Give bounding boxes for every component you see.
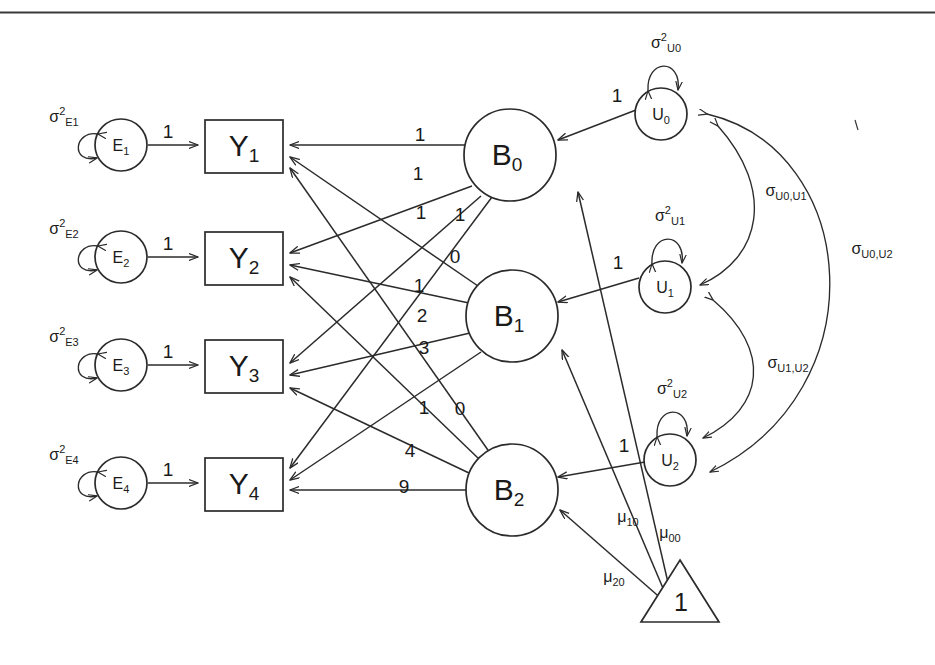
edge-u0-to-b0 xyxy=(558,110,636,140)
stray-pen-mark xyxy=(855,120,858,130)
latent-node-b0: B0 xyxy=(464,109,556,201)
observed-node-y3: Y3 xyxy=(205,340,283,393)
sem-path-diagram: E1 σ2E1 1 E2 σ2E2 1 E3 σ2E3 1 E4 σ2E4 1 … xyxy=(0,0,935,665)
loading-label-e1-y1: 1 xyxy=(163,121,174,142)
e2-variance-label: σ2E2 xyxy=(49,217,78,240)
loading-label-e4-y4: 1 xyxy=(163,459,174,480)
covariance-label-u0-u2: σU0,U2 xyxy=(851,240,892,260)
diagram-canvas: E1 σ2E1 1 E2 σ2E2 1 E3 σ2E3 1 E4 σ2E4 1 … xyxy=(0,0,935,665)
covariance-arc-u1-u2 xyxy=(703,300,754,438)
edge-b2-to-y3 xyxy=(290,388,469,473)
path-label-b0-y2: 1 xyxy=(413,163,424,184)
mean-label-mu10: μ10 xyxy=(617,508,638,528)
residual-node-e1: E1 xyxy=(95,119,147,171)
disturbance-node-u0: U0 xyxy=(635,88,687,140)
path-label-b2-y2: 1 xyxy=(419,397,430,418)
path-label-b0-y1: 1 xyxy=(415,124,426,145)
latent-node-b2: B2 xyxy=(466,444,558,536)
e4-variance-label: σ2E4 xyxy=(49,443,78,466)
disturbance-node-u1: U1 xyxy=(639,261,691,313)
constant-label: 1 xyxy=(674,588,688,616)
path-label-b1-y3: 2 xyxy=(417,305,428,326)
path-label-b2-y1: 0 xyxy=(455,398,466,419)
covariance-arc-u0-u2 xyxy=(707,114,830,472)
loading-label-u0-b0: 1 xyxy=(612,85,623,106)
path-label-b1-y1: 0 xyxy=(450,246,461,267)
observed-node-y1: Y1 xyxy=(205,120,283,173)
latent-node-b1: B1 xyxy=(466,270,558,362)
loading-label-e3-y3: 1 xyxy=(163,341,174,362)
residual-node-e2: E2 xyxy=(95,231,147,283)
path-label-b0-y4: 1 xyxy=(455,204,466,225)
residual-node-e4: E4 xyxy=(95,457,147,509)
path-label-b0-y3: 1 xyxy=(416,202,427,223)
edge-b0-to-y4 xyxy=(290,197,492,468)
mean-label-mu20: μ20 xyxy=(603,568,624,588)
u1-variance-label: σ2U1 xyxy=(655,204,685,227)
mean-label-mu00: μ00 xyxy=(659,524,680,544)
residual-node-e3: E3 xyxy=(95,339,147,391)
covariance-arc-u0-u1 xyxy=(700,126,754,285)
u0-variance-label: σ2U0 xyxy=(651,31,681,54)
path-label-b1-y4: 3 xyxy=(419,337,430,358)
e1-variance-label: σ2E1 xyxy=(49,105,78,128)
observed-node-y2: Y2 xyxy=(205,232,283,285)
path-label-b1-y2: 1 xyxy=(414,275,425,296)
observed-node-y4: Y4 xyxy=(205,458,283,511)
covariance-label-u1-u2: σU1,U2 xyxy=(767,354,808,374)
loading-label-e2-y2: 1 xyxy=(163,233,174,254)
edge-u2-to-b2 xyxy=(558,462,645,477)
path-label-b2-y4: 9 xyxy=(399,476,410,497)
loading-label-u1-b1: 1 xyxy=(613,252,624,273)
path-label-b2-y3: 4 xyxy=(405,440,416,461)
disturbance-node-u2: U2 xyxy=(644,434,696,486)
edge-b0-to-y3 xyxy=(290,196,481,363)
covariance-label-u0-u1: σU0,U1 xyxy=(765,182,806,202)
e3-variance-label: σ2E3 xyxy=(49,325,78,348)
loading-label-u2-b2: 1 xyxy=(619,435,630,456)
edge-b1-to-y4 xyxy=(290,352,481,480)
edge-b1-to-y2 xyxy=(290,265,469,303)
u2-variance-label: σ2U2 xyxy=(657,377,687,400)
